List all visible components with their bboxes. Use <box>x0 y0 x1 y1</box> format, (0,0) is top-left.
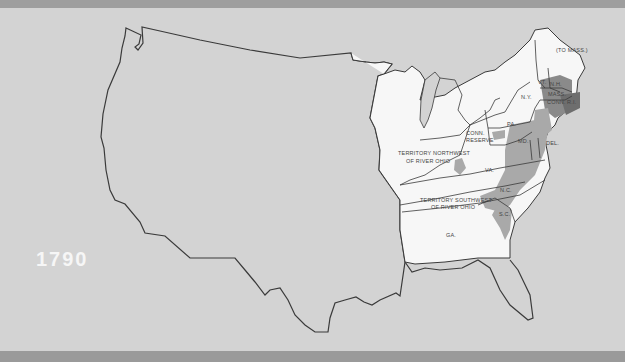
svg-text:MASS.: MASS. <box>548 91 566 97</box>
us-outline <box>101 27 405 332</box>
svg-text:N.Y.: N.Y. <box>521 94 532 100</box>
svg-text:TERRITORY SOUTHWEST: TERRITORY SOUTHWEST <box>420 197 492 203</box>
svg-text:GA.: GA. <box>446 232 456 238</box>
svg-text:TERRITORY NORTHWEST: TERRITORY NORTHWEST <box>398 150 471 156</box>
svg-text:VT.: VT. <box>538 79 547 85</box>
svg-text:(TO MASS.): (TO MASS.) <box>556 47 588 53</box>
svg-text:CONN.: CONN. <box>547 99 566 105</box>
svg-text:VA.: VA. <box>485 167 494 173</box>
svg-text:DEL.: DEL. <box>546 140 559 146</box>
us-map-1790: (TO MASS.) VT. N.H. MASS. CONN. R.I. N.Y… <box>0 0 625 362</box>
map-frame: (TO MASS.) VT. N.H. MASS. CONN. R.I. N.Y… <box>0 0 625 362</box>
gulf-florida-coast <box>405 260 533 320</box>
svg-text:MD.: MD. <box>518 138 529 144</box>
svg-text:CONN.: CONN. <box>466 130 485 136</box>
year-label: 1790 <box>36 248 89 271</box>
svg-text:R.I.: R.I. <box>567 99 577 105</box>
svg-text:RESERVE: RESERVE <box>466 137 494 143</box>
svg-text:S.C.: S.C. <box>499 211 511 217</box>
svg-text:N.C.: N.C. <box>500 187 512 193</box>
svg-text:N.H.: N.H. <box>550 81 562 87</box>
svg-text:OF RIVER OHIO: OF RIVER OHIO <box>406 158 451 164</box>
svg-text:OF RIVER OHIO: OF RIVER OHIO <box>431 204 476 210</box>
svg-text:PA.: PA. <box>507 121 516 127</box>
